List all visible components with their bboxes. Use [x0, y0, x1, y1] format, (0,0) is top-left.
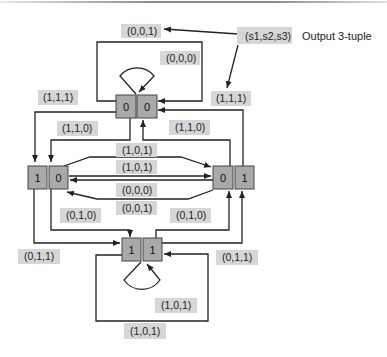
state-right: 0 1	[213, 166, 254, 189]
svg-text:(1,0,1): (1,0,1)	[122, 161, 152, 173]
label-left-to-bottom: (0,1,0)	[60, 208, 101, 223]
svg-text:(s1,s2,s3): (s1,s2,s3)	[245, 30, 291, 42]
svg-text:(0,0,1): (0,0,1)	[127, 25, 157, 37]
legend-arrow-to-001	[164, 29, 238, 34]
top-self-loop	[120, 68, 154, 94]
label-bottom-to-right: (0,1,0)	[170, 208, 211, 223]
state-top-s2: 0	[144, 101, 150, 113]
label-top-self-loop: (0,0,0)	[160, 51, 200, 65]
svg-text:(0,1,0): (0,1,0)	[66, 209, 96, 221]
state-bottom-s1: 1	[128, 244, 134, 256]
state-left: 1 0	[28, 166, 68, 189]
label-left-to-bottom-outer: (0,1,1)	[18, 249, 60, 264]
state-left-s1: 1	[34, 172, 40, 184]
state-bottom: 1 1	[122, 238, 162, 261]
state-top-s1: 0	[123, 101, 129, 113]
label-bottom-loop-outer: (1,0,1)	[124, 323, 166, 339]
svg-text:(0,0,0): (0,0,0)	[166, 52, 196, 64]
legend-arrow-to-111	[227, 45, 238, 88]
svg-text:(1,0,1): (1,0,1)	[122, 144, 152, 156]
edge-labels: (0,0,1) (0,0,0) (s1,s2,s3) Output 3-tupl…	[18, 24, 372, 339]
label-bottom-to-right-outer: (0,1,1)	[216, 250, 258, 265]
state-left-s2: 0	[55, 172, 61, 184]
svg-text:(1,0,1): (1,0,1)	[130, 325, 160, 337]
svg-text:(1,0,1): (1,0,1)	[161, 299, 191, 311]
svg-text:(1,1,1): (1,1,1)	[43, 91, 73, 103]
edge-top-to-left-1	[35, 112, 116, 162]
state-bottom-s2: 1	[149, 244, 155, 256]
state-top: 0 0	[116, 95, 157, 118]
label-mid-1: (1,0,1)	[116, 143, 157, 157]
bottom-self-loop	[124, 262, 160, 289]
legend-description: Output 3-tuple	[302, 30, 372, 42]
svg-text:(1,1,0): (1,1,0)	[62, 122, 92, 134]
label-bottom-self-loop: (1,0,1)	[155, 298, 197, 313]
label-mid-4: (0,0,1)	[116, 201, 157, 215]
svg-text:(0,1,1): (0,1,1)	[24, 250, 54, 262]
svg-text:(0,0,0): (0,0,0)	[122, 184, 152, 196]
svg-text:(0,0,1): (0,0,1)	[122, 202, 152, 214]
label-mid-2: (1,0,1)	[116, 160, 157, 174]
svg-text:(0,1,0): (0,1,0)	[176, 209, 206, 221]
label-top-to-left-inner: (1,1,0)	[57, 121, 98, 136]
svg-text:(1,1,0): (1,1,0)	[175, 121, 205, 133]
label-top-to-left: (1,1,1)	[38, 90, 78, 105]
label-legend-to-right: (1,1,1)	[211, 91, 251, 106]
state-diagram: (0,0,1) (0,0,0) (s1,s2,s3) Output 3-tupl…	[0, 0, 387, 357]
label-right-to-top: (1,1,0)	[169, 120, 210, 135]
state-right-s2: 1	[241, 172, 247, 184]
legend-tuple-label: (s1,s2,s3)	[237, 27, 292, 44]
svg-text:(1,1,1): (1,1,1)	[216, 92, 246, 104]
svg-text:(0,1,1): (0,1,1)	[222, 251, 252, 263]
label-mid-3: (0,0,0)	[116, 183, 157, 197]
state-right-s1: 0	[220, 172, 226, 184]
label-top-loop-outer: (0,0,1)	[121, 24, 161, 38]
